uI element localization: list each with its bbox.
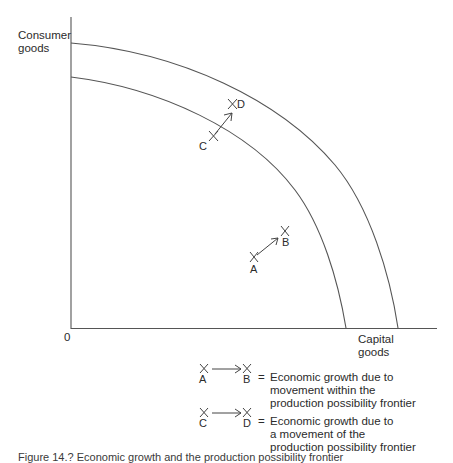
legend-label-b: B <box>243 373 250 385</box>
point-label-a: A <box>250 263 257 275</box>
x-axis-label-line1: Capital <box>358 333 394 346</box>
legend-d-marker <box>243 408 251 417</box>
legend-arrow-c-d <box>212 409 241 417</box>
legend-item-1-line3: production possibility frontier <box>270 397 416 410</box>
ppf-curve-original <box>71 77 346 328</box>
legend-item-2-line1: Economic growth due to <box>270 415 416 428</box>
legend-c-marker <box>200 408 208 417</box>
x-axis-label-line2: goods <box>358 346 394 359</box>
point-label-c: C <box>199 140 207 152</box>
figure-caption: Figure 14.? Economic growth and the prod… <box>18 451 343 463</box>
legend-equals-2: = <box>258 415 265 428</box>
legend-item-1-line1: Economic growth due to <box>270 371 416 384</box>
arrow-c-to-d <box>215 113 232 134</box>
legend-item-2-text: Economic growth due to a movement of the… <box>270 415 416 454</box>
legend-item-1-line2: movement within the <box>270 384 416 397</box>
legend-arrow-a-b <box>212 365 241 373</box>
legend-label-d: D <box>243 417 251 429</box>
legend-a-marker <box>200 364 208 373</box>
legend-item-2-line2: a movement of the <box>270 428 416 441</box>
point-d-marker <box>228 99 237 109</box>
x-axis-label: Capital goods <box>358 333 394 359</box>
point-label-d: D <box>237 98 245 110</box>
y-axis-label-line1: Consumer <box>18 29 71 42</box>
arrow-a-to-b <box>257 238 278 255</box>
legend-equals-1: = <box>258 371 265 384</box>
origin-label: 0 <box>64 331 70 344</box>
legend-label-c: C <box>199 417 207 429</box>
legend-b-marker <box>243 364 251 373</box>
point-label-b: B <box>282 236 289 248</box>
legend-label-a: A <box>199 373 206 385</box>
y-axis-label: Consumer goods <box>18 29 71 55</box>
y-axis-label-line2: goods <box>18 42 71 55</box>
legend-item-1-text: Economic growth due to movement within t… <box>270 371 416 410</box>
point-a-marker <box>250 252 258 262</box>
point-b-marker <box>281 226 289 236</box>
